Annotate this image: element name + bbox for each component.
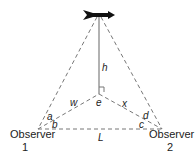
label-x: x bbox=[121, 98, 128, 109]
label-d: d bbox=[143, 110, 149, 121]
label-L: L bbox=[98, 132, 104, 143]
triangulation-diagram: h w e x a b c d L Observer 1 Observer 2 bbox=[0, 0, 196, 158]
label-h: h bbox=[102, 62, 108, 73]
observer-2-label: Observer bbox=[149, 128, 195, 140]
observer-1-number: 1 bbox=[22, 141, 28, 153]
observer-1-label: Observer bbox=[10, 128, 56, 140]
label-e: e bbox=[96, 97, 102, 108]
label-w: w bbox=[70, 97, 78, 108]
observer-2-number: 2 bbox=[167, 141, 173, 153]
